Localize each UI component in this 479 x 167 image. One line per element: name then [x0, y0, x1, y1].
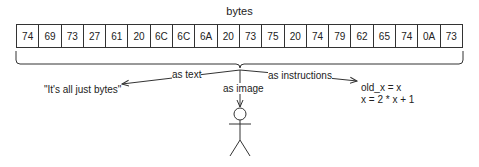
label-as-image: as image	[223, 83, 264, 94]
instruction-line-1: old_x = x	[361, 82, 401, 93]
brace	[16, 51, 463, 68]
stick-figure-icon	[229, 108, 251, 156]
label-as-text: as text	[172, 69, 201, 80]
text-result: "It's all just bytes"	[44, 84, 121, 95]
label-as-instructions: as instructions	[268, 70, 332, 81]
instruction-line-2: x = 2 * x + 1	[361, 94, 414, 105]
